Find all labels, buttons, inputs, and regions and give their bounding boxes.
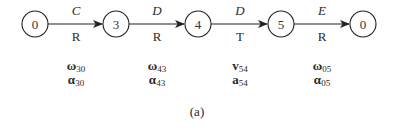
edge-vector-2: a54 bbox=[232, 72, 248, 88]
figure-caption: (a) bbox=[190, 104, 204, 120]
edge-vector-2: α05 bbox=[314, 72, 330, 88]
edge-vector-2: α43 bbox=[149, 72, 165, 88]
node-4: 4 bbox=[185, 11, 211, 37]
node-0-start: 0 bbox=[22, 11, 48, 37]
node-3: 3 bbox=[103, 11, 129, 37]
edge-label-joint-type: R bbox=[153, 29, 162, 45]
edge-vector-2: α30 bbox=[68, 72, 84, 88]
edge-label-body: D bbox=[152, 3, 161, 19]
svg-text:3: 3 bbox=[113, 17, 120, 32]
svg-text:0: 0 bbox=[360, 17, 367, 32]
edge-label-joint-type: R bbox=[72, 29, 81, 45]
edge-label-body: C bbox=[72, 3, 81, 19]
edge-label-body: E bbox=[318, 3, 326, 19]
svg-text:4: 4 bbox=[195, 17, 202, 32]
edge-label-body: D bbox=[235, 3, 244, 19]
svg-text:0: 0 bbox=[32, 17, 39, 32]
node-5: 5 bbox=[268, 11, 294, 37]
node-0-end: 0 bbox=[350, 11, 376, 37]
svg-text:5: 5 bbox=[278, 17, 285, 32]
edge-label-joint-type: T bbox=[236, 29, 244, 45]
edge-label-joint-type: R bbox=[318, 29, 327, 45]
